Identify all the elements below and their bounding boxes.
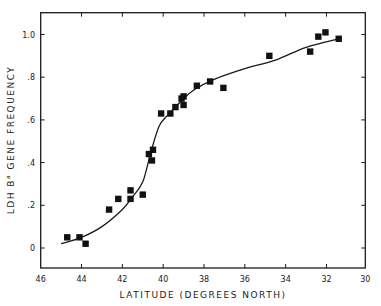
y-tick-label: .2 — [27, 201, 35, 210]
data-point — [220, 85, 226, 91]
y-tick-label: 1.0 — [22, 31, 35, 40]
y-axis-title: LDH Ba GENE FREQUENCY — [4, 66, 16, 215]
x-tick-label: 32 — [321, 275, 331, 284]
data-point — [322, 29, 328, 35]
x-tick-label: 44 — [76, 275, 86, 284]
data-point — [140, 191, 146, 197]
data-point — [307, 48, 313, 54]
plot-frame — [41, 13, 366, 268]
data-point — [115, 196, 121, 202]
x-tick-label: 42 — [117, 275, 127, 284]
x-tick-label: 30 — [360, 275, 370, 284]
data-point — [266, 53, 272, 59]
y-tick-label: .6 — [27, 116, 35, 125]
data-points — [64, 29, 342, 247]
fitted-curve — [61, 39, 339, 244]
y-axis-title-suffix: GENE FREQUENCY — [6, 66, 16, 174]
y-tick-label: .8 — [27, 73, 35, 82]
x-tick-label: 34 — [281, 275, 291, 284]
x-tick-label: 36 — [240, 275, 250, 284]
data-point — [336, 36, 342, 42]
data-point — [76, 234, 82, 240]
data-point — [194, 83, 200, 89]
y-axis-ticks: 0.2.4.6.81.0 — [22, 31, 365, 254]
data-point — [180, 102, 186, 108]
data-point — [106, 206, 112, 212]
data-point — [127, 187, 133, 193]
data-point — [64, 234, 70, 240]
data-point — [315, 33, 321, 39]
y-tick-label: .4 — [27, 159, 35, 168]
data-point — [150, 147, 156, 153]
data-point — [167, 110, 173, 116]
x-tick-label: 38 — [199, 275, 209, 284]
data-point — [172, 104, 178, 110]
data-point — [149, 157, 155, 163]
y-axis-title-main: LDH B — [6, 179, 16, 214]
x-tick-label: 46 — [36, 275, 46, 284]
chart: 464442403836343230 0.2.4.6.81.0 LATITUDE… — [0, 0, 381, 306]
data-point — [82, 241, 88, 247]
x-axis-title: LATITUDE (DEGREES NORTH) — [120, 290, 287, 300]
data-point — [127, 196, 133, 202]
y-tick-label: 0 — [30, 244, 35, 253]
x-tick-label: 40 — [158, 275, 168, 284]
data-point — [158, 110, 164, 116]
data-point — [207, 78, 213, 84]
data-point — [180, 93, 186, 99]
